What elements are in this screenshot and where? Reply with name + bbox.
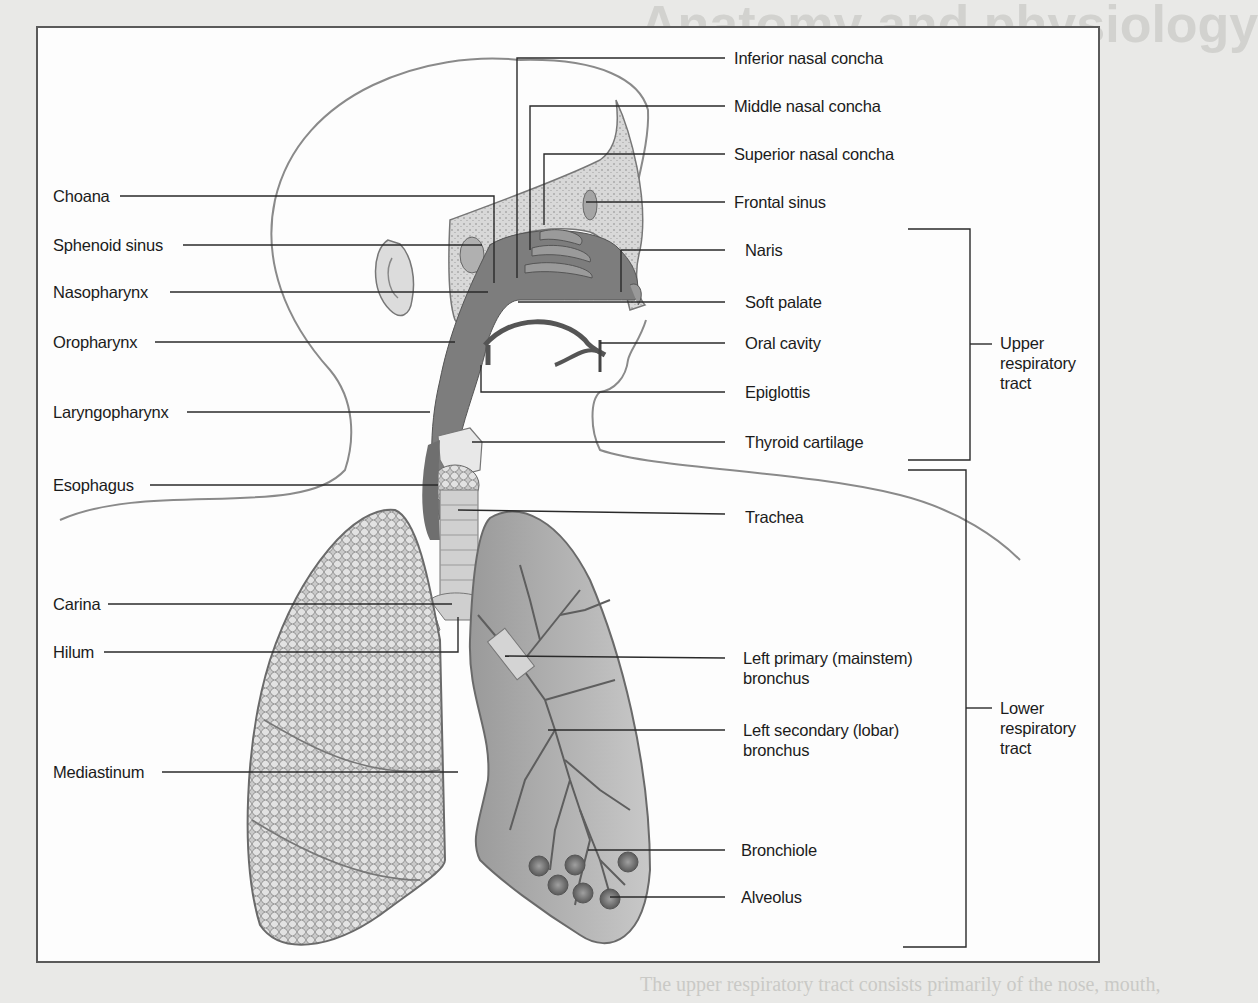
label-line: Upper	[1000, 333, 1076, 353]
label-inferior-nasal-concha: Inferior nasal concha	[734, 48, 883, 68]
label-laryngopharynx: Laryngopharynx	[53, 402, 169, 422]
label-line: Left secondary (lobar)	[743, 720, 899, 740]
label-mediastinum: Mediastinum	[53, 762, 144, 782]
label-middle-nasal-concha: Middle nasal concha	[734, 96, 881, 116]
label-line: bronchus	[743, 668, 913, 688]
label-hilum: Hilum	[53, 642, 94, 662]
label-line: Left primary (mainstem)	[743, 648, 913, 668]
label-naris: Naris	[745, 240, 783, 260]
label-line: tract	[1000, 373, 1076, 393]
label-line: respiratory	[1000, 718, 1076, 738]
label-thyroid-cartilage: Thyroid cartilage	[745, 432, 864, 452]
label-line: respiratory	[1000, 353, 1076, 373]
label-trachea: Trachea	[745, 507, 804, 527]
ear-icon	[376, 240, 414, 315]
label-oral-cavity: Oral cavity	[745, 333, 821, 353]
label-line: Lower	[1000, 698, 1076, 718]
label-frontal-sinus: Frontal sinus	[734, 192, 826, 212]
label-oropharynx: Oropharynx	[53, 332, 137, 352]
label-left-primary-bronchus: Left primary (mainstem) bronchus	[743, 648, 913, 688]
label-sphenoid-sinus: Sphenoid sinus	[53, 235, 163, 255]
label-superior-nasal-concha: Superior nasal concha	[734, 144, 894, 164]
label-line: tract	[1000, 738, 1076, 758]
label-epiglottis: Epiglottis	[745, 382, 810, 402]
label-line: bronchus	[743, 740, 899, 760]
label-choana: Choana	[53, 186, 110, 206]
label-esophagus: Esophagus	[53, 475, 134, 495]
label-carina: Carina	[53, 594, 100, 614]
label-nasopharynx: Nasopharynx	[53, 282, 148, 302]
label-soft-palate: Soft palate	[745, 292, 822, 312]
label-lower-respiratory-tract: Lower respiratory tract	[1000, 698, 1076, 758]
label-left-secondary-bronchus: Left secondary (lobar) bronchus	[743, 720, 899, 760]
label-alveolus: Alveolus	[741, 887, 802, 907]
label-bronchiole: Bronchiole	[741, 840, 817, 860]
label-upper-respiratory-tract: Upper respiratory tract	[1000, 333, 1076, 393]
